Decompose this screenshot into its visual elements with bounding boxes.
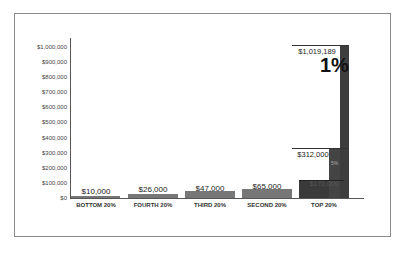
top1-pct-label: 1% xyxy=(320,54,349,77)
category-label: THIRD 20% xyxy=(194,202,226,208)
category-label: TOP 20% xyxy=(311,202,337,208)
value-label: $47,000 xyxy=(196,184,225,193)
y-tick: $800,000 xyxy=(42,74,67,80)
y-tick: $0 xyxy=(60,195,67,201)
x-axis xyxy=(70,198,364,199)
y-tick: $300,000 xyxy=(42,150,67,156)
value-label-top20: $170,000 xyxy=(309,180,338,187)
y-tick: $1,000,000 xyxy=(37,44,67,50)
value-label-top5: $312,000 xyxy=(297,150,328,159)
bar-fourth-20 xyxy=(128,194,178,198)
y-tick: $700,000 xyxy=(42,89,67,95)
y-tick: $600,000 xyxy=(42,104,67,110)
y-tick: $900,000 xyxy=(42,59,67,65)
category-label: BOTTOM 20% xyxy=(76,202,116,208)
value-label: $10,000 xyxy=(82,187,111,196)
value-label: $65,000 xyxy=(253,182,282,191)
y-axis xyxy=(70,38,71,198)
category-label: FOURTH 20% xyxy=(134,202,173,208)
top1-marker-line xyxy=(292,45,349,46)
top5-pct-label: 5% xyxy=(331,160,338,166)
category-label: SECOND 20% xyxy=(247,202,286,208)
y-tick: $500,000 xyxy=(42,119,67,125)
y-tick: $100,000 xyxy=(42,180,67,186)
top5-marker-line xyxy=(292,148,349,149)
value-label: $26,000 xyxy=(139,185,168,194)
bar-top-5 xyxy=(329,148,340,198)
y-tick: $200,000 xyxy=(42,165,67,171)
y-tick: $400,000 xyxy=(42,135,67,141)
bar-bottom-20 xyxy=(71,196,120,198)
